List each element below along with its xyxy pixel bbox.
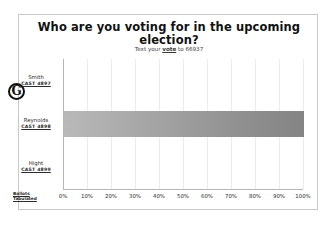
page-title: Who are you voting for in the upcoming e…: [33, 21, 305, 47]
vote-instructions: Text your vote to 66937: [33, 45, 305, 53]
vote-instructions-suffix: to 66937: [176, 46, 203, 52]
x-tick-label: 70%: [218, 193, 244, 199]
x-tick-label: 80%: [242, 193, 268, 199]
category-label-hight: HightCAST 4899: [13, 160, 59, 173]
x-tick-label: 90%: [266, 193, 292, 199]
ballots-tabulated-note: Ballots Tabulated: [13, 191, 59, 201]
g-marker-icon: G: [8, 83, 25, 100]
category-vote-code: CAST 4899: [13, 167, 59, 173]
vote-instructions-prefix: Text your: [135, 46, 162, 52]
x-tick-label: 10%: [74, 193, 100, 199]
bar-reynolds: [64, 111, 304, 137]
vote-keyword: vote: [162, 46, 176, 52]
x-tick-label: 50%: [170, 193, 196, 199]
ballots-tabulated-line2: Tabulated: [13, 196, 59, 201]
category-label-reynolds: ReynoldsCAST 4898: [13, 117, 59, 130]
x-tick-label: 60%: [194, 193, 220, 199]
poll-slide: Who are you voting for in the upcoming e…: [18, 14, 318, 210]
category-name: Smith: [13, 74, 59, 81]
x-axis-line: [63, 189, 303, 190]
x-tick-label: 30%: [122, 193, 148, 199]
category-vote-code: CAST 4898: [13, 124, 59, 130]
bar-chart-plot-area: SmithCAST 4897ReynoldsCAST 4898HightCAST…: [63, 59, 303, 189]
x-tick-label: 100%: [290, 193, 316, 199]
x-tick-label: 20%: [98, 193, 124, 199]
category-name: Hight: [13, 160, 59, 167]
category-name: Reynolds: [13, 117, 59, 124]
bar-fill: [64, 111, 304, 137]
x-tick-label: 40%: [146, 193, 172, 199]
